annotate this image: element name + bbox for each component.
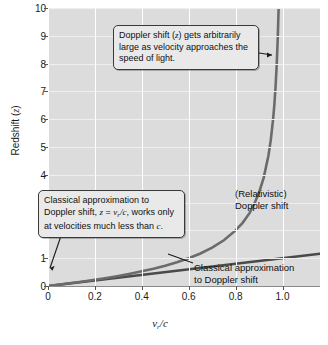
y-tick-mark-1 [44,258,48,259]
figure-doppler-redshift: 10 9 8 7 6 5 4 3 2 1 0 0 0.2 0.4 0.6 0.8… [0,0,328,345]
x-tick-label-1.0: 1.0 [268,292,298,302]
y-tick-label-6: 6 [20,115,46,125]
y-tick-mark-7 [44,91,48,92]
gridline-x-0 [48,8,49,286]
x-tick-label-0: 0 [33,292,63,302]
y-tick-label-0: 0 [20,282,46,292]
y-tick-label-1: 1 [20,254,46,264]
callout-relativistic-line2: large as velocity approaches [119,42,233,52]
gridline-y-7 [48,91,320,92]
gridline-y-6 [48,119,320,120]
y-tick-mark-9 [44,36,48,37]
y-axis-label-tail: ) [10,105,21,108]
y-tick-label-8: 8 [20,60,46,70]
x-tick-mark-0.4 [142,286,143,290]
y-tick-label-7: 7 [20,87,46,97]
gridline-x-0.2 [95,8,96,286]
curve-label-classical-line2: to Doppler shift [194,274,324,286]
callout-classical-line3a: at velocities much less than [44,221,157,231]
x-tick-mark-0.2 [95,286,96,290]
x-tick-label-0.6: 0.6 [174,292,204,302]
callout-classical-line2b: , works only [127,207,175,217]
gridline-y-4 [48,175,320,176]
y-tick-mark-6 [44,119,48,120]
y-tick-mark-5 [44,147,48,148]
y-axis-label-text: Redshift ( [10,113,21,156]
curve-label-relativistic-line2: Doppler shift [235,200,325,212]
y-tick-label-10: 10 [20,4,46,14]
y-tick-label-5: 5 [20,143,46,153]
y-tick-mark-10 [44,8,48,9]
gridline-y-1 [48,258,320,259]
x-tick-mark-1.0 [283,286,284,290]
callout-relativistic-doppler: Doppler shift (z) gets arbitrarily large… [113,25,259,70]
gridline-y-10 [48,8,320,9]
curve-label-classical: Classical approximation to Doppler shift [194,262,324,285]
curve-label-classical-line1: Classical approximation [194,262,324,274]
y-tick-label-4: 4 [20,171,46,181]
gridline-x-1.0 [283,8,284,286]
y-tick-label-9: 9 [20,32,46,42]
callout-classical-eq: = [103,207,113,217]
y-tick-mark-4 [44,175,48,176]
x-axis-line [48,286,320,287]
callout-classical-approximation: Classical approximation to Doppler shift… [38,190,185,238]
x-tick-label-0.2: 0.2 [80,292,110,302]
callout-relativistic-line1b: ) gets arbitrarily [179,30,241,40]
y-tick-mark-8 [44,64,48,65]
y-axis-label: Redshift (z) [10,86,21,176]
x-tick-label-0.8: 0.8 [221,292,251,302]
curve-label-relativistic-line1: (Relativistic) [235,188,325,200]
callout-classical-line1: Classical approximation to [44,195,149,205]
callout-classical-line2a: Doppler shift, [44,207,100,217]
callout-classical-line3b: . [161,221,164,231]
y-axis-label-italic-z: z [10,109,21,113]
x-axis-label: vr/c [120,317,200,331]
x-axis-label-rest: /c [160,317,168,329]
gridline-y-5 [48,147,320,148]
x-tick-label-0.4: 0.4 [127,292,157,302]
callout-relativistic-line1: Doppler shift ( [119,30,175,40]
x-tick-mark-0.6 [189,286,190,290]
x-tick-mark-0 [48,286,49,290]
curve-label-relativistic: (Relativistic) Doppler shift [235,188,325,211]
x-tick-mark-0.8 [236,286,237,290]
